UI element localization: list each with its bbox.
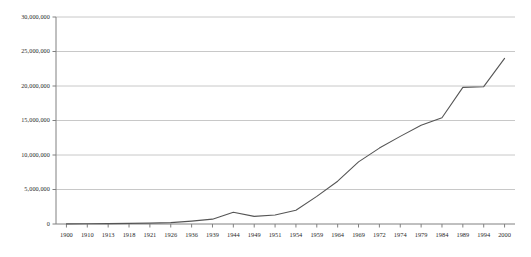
y-axis-tick-label: 5,000,000	[0, 186, 50, 192]
y-axis-tick-label: 20,000,000	[0, 83, 50, 89]
y-axis-tick-label: 25,000,000	[0, 48, 50, 54]
line-chart: 05,000,00010,000,00015,000,00020,000,000…	[0, 0, 531, 257]
chart-canvas	[0, 0, 531, 257]
y-tick-mark-group	[53, 17, 57, 224]
x-axis-tick-label: 2000	[492, 232, 518, 238]
gridline-group	[56, 17, 515, 224]
y-axis-tick-label: 10,000,000	[0, 152, 50, 158]
y-axis-tick-label: 15,000,000	[0, 117, 50, 123]
y-axis-tick-label: 0	[0, 221, 50, 227]
data-series-line	[66, 58, 504, 223]
y-axis-tick-label: 30,000,000	[0, 14, 50, 20]
x-tick-mark-group	[66, 224, 504, 228]
